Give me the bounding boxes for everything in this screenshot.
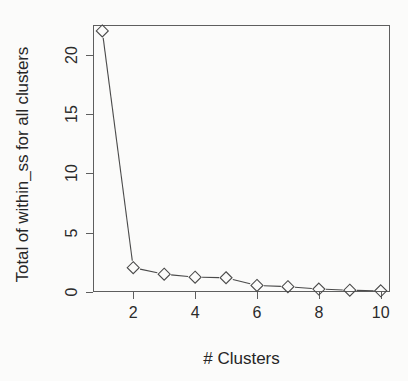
x-axis-tick-label: 4 bbox=[178, 304, 212, 322]
y-axis-tick-label: 15 bbox=[63, 99, 81, 129]
y-axis-tick bbox=[86, 173, 93, 174]
series-line-segment bbox=[326, 289, 343, 290]
series-line-segment bbox=[233, 279, 250, 283]
series-line-segment bbox=[140, 269, 157, 273]
series-line-segment bbox=[103, 38, 132, 261]
x-axis-tick-label: 8 bbox=[302, 304, 336, 322]
y-axis-tick bbox=[86, 233, 93, 234]
data-point-marker bbox=[344, 284, 356, 296]
data-point-marker bbox=[158, 268, 170, 280]
y-axis-tick bbox=[86, 55, 93, 56]
x-axis-tick bbox=[257, 292, 258, 299]
x-axis-title: # Clusters bbox=[93, 349, 390, 369]
y-axis-tick bbox=[86, 114, 93, 115]
x-axis-tick-label: 2 bbox=[116, 304, 150, 322]
series-line-segment bbox=[295, 287, 312, 288]
data-point-marker bbox=[220, 272, 232, 284]
data-point-marker bbox=[282, 281, 294, 293]
y-axis-tick-label: 10 bbox=[63, 158, 81, 188]
y-axis-tick-label: 0 bbox=[63, 277, 81, 307]
plot-surface bbox=[93, 25, 390, 292]
data-series-within-ss bbox=[93, 25, 390, 292]
data-point-marker bbox=[96, 25, 108, 37]
data-point-marker bbox=[189, 271, 201, 283]
data-point-marker bbox=[127, 262, 139, 274]
y-axis-tick-label: 5 bbox=[63, 218, 81, 248]
series-line-segment bbox=[171, 275, 188, 277]
y-axis-tick-label: 20 bbox=[63, 40, 81, 70]
x-axis-tick bbox=[133, 292, 134, 299]
y-axis-title: Total of within_ss for all clusters bbox=[8, 9, 38, 320]
y-axis-tick bbox=[86, 292, 93, 293]
x-axis-tick-label: 10 bbox=[364, 304, 398, 322]
x-axis-tick-label: 6 bbox=[240, 304, 274, 322]
series-line-segment bbox=[264, 286, 281, 287]
chart-figure: Total of within_ss for all clusters # Cl… bbox=[0, 0, 408, 381]
data-point-marker bbox=[251, 279, 263, 291]
x-axis-tick bbox=[195, 292, 196, 299]
